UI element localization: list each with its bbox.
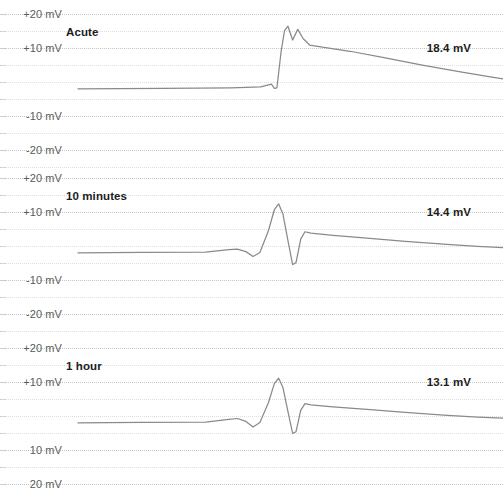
recording-panel: +20 mV+10 mV-10 mV-20 mV10 minutes14.4 m… [0, 178, 503, 331]
membrane-potential-recording-figure: +20 mV+10 mV-10 mV-20 mVAcute18.4 mV+20 … [0, 0, 503, 500]
voltage-trace-path [78, 204, 503, 265]
voltage-trace [0, 348, 503, 500]
voltage-trace [0, 178, 503, 331]
recording-panel: +20 mV+10 mV10 mV20 mV1 hour13.1 mV [0, 348, 503, 500]
gridline [0, 167, 503, 169]
gridline [0, 331, 503, 333]
voltage-trace-path [78, 26, 503, 89]
voltage-trace-path [78, 378, 503, 433]
gridline-edge-stub [0, 331, 6, 333]
voltage-trace [0, 14, 503, 167]
gridline-edge-stub [0, 167, 6, 169]
recording-panel: +20 mV+10 mV-10 mV-20 mVAcute18.4 mV [0, 14, 503, 167]
